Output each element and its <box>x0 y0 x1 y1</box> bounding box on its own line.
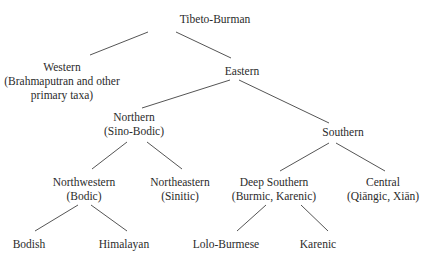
node-label: Deep Southern <box>232 175 316 189</box>
node-label: Northwestern <box>53 175 116 189</box>
node-sublabel-2: primary taxa) <box>4 88 120 102</box>
node-label: Lolo-Burmese <box>193 238 259 250</box>
edge-eastern-southern <box>239 80 329 123</box>
node-northeastern: Northeastern (Sinitic) <box>150 175 209 203</box>
edge-northwestern-bodish <box>35 205 78 231</box>
edge-northwestern-himalayan <box>91 205 127 231</box>
node-label: Bodish <box>13 238 46 250</box>
node-tibeto-burman: Tibeto-Burman <box>180 12 251 26</box>
node-label: Western <box>4 60 120 74</box>
edge-root-eastern <box>176 32 231 58</box>
node-deep-southern: Deep Southern (Burmic, Karenic) <box>232 175 316 203</box>
edge-eastern-northern <box>142 80 230 108</box>
node-sublabel: (Brahmaputran and other <box>4 74 120 88</box>
node-karenic: Karenic <box>300 237 336 251</box>
edge-northern-northwestern <box>92 142 127 169</box>
edge-southern-central <box>336 143 385 171</box>
edge-deep_southern-karenic <box>301 205 328 231</box>
tree-edges <box>0 0 431 261</box>
node-label: Northeastern <box>150 175 209 189</box>
node-southern: Southern <box>322 125 364 139</box>
node-label: Karenic <box>300 238 336 250</box>
node-label: Central <box>347 175 419 189</box>
node-label: Southern <box>322 126 364 138</box>
node-central: Central (Qiāngic, Xiān) <box>347 175 419 203</box>
node-sublabel: (Bodic) <box>53 189 116 203</box>
node-sublabel: (Qiāngic, Xiān) <box>347 189 419 203</box>
node-sublabel: (Sinitic) <box>150 189 209 203</box>
node-northwestern: Northwestern (Bodic) <box>53 175 116 203</box>
tree-diagram: Tibeto-Burman Western (Brahmaputran and … <box>0 0 431 261</box>
node-label: Himalayan <box>99 238 149 250</box>
node-label: Tibeto-Burman <box>180 13 251 25</box>
node-western: Western (Brahmaputran and other primary … <box>4 60 120 102</box>
node-bodish: Bodish <box>13 237 46 251</box>
node-sublabel: (Burmic, Karenic) <box>232 189 316 203</box>
edge-southern-deep_southern <box>280 143 329 171</box>
node-northern: Northern (Sino-Bodic) <box>104 110 164 138</box>
node-label: Northern <box>104 110 164 124</box>
edge-root-western <box>90 32 148 55</box>
edge-northern-northeastern <box>147 142 182 169</box>
edge-deep_southern-lolo_burmese <box>237 205 266 231</box>
node-eastern: Eastern <box>225 64 259 78</box>
node-sublabel: (Sino-Bodic) <box>104 124 164 138</box>
node-label: Eastern <box>225 65 259 77</box>
node-himalayan: Himalayan <box>99 237 149 251</box>
node-lolo-burmese: Lolo-Burmese <box>193 237 259 251</box>
